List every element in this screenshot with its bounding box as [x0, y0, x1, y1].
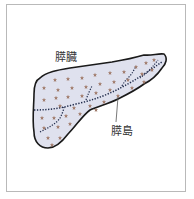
- pancreas-diagram: [0, 0, 194, 199]
- islet-leader-line: [116, 97, 118, 122]
- pancreas-outline: [33, 54, 166, 148]
- pancreas-label: 膵臓: [55, 48, 77, 64]
- islet-label: 膵島: [111, 122, 133, 138]
